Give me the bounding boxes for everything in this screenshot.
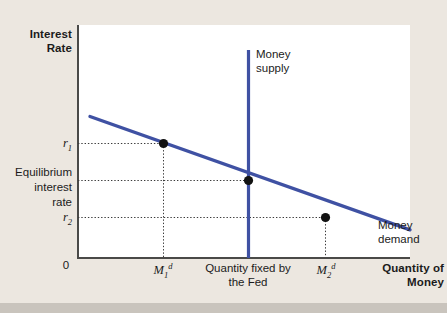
x-tick-m2-base: M	[317, 263, 327, 277]
x-tick-m1-superscript: d	[168, 261, 172, 271]
x-tick-fed: Quantity fixed by the Fed	[196, 261, 300, 290]
plot-area	[78, 25, 410, 258]
y-axis-title: Interest Rate	[6, 28, 72, 55]
x-axis-line	[77, 257, 410, 259]
bottom-strip	[0, 303, 447, 313]
y-axis-line	[77, 25, 79, 259]
y-tick-equilibrium: Equilibrium interest rate	[2, 165, 72, 210]
x-tick-m1-subscript: 1	[164, 270, 168, 280]
money-demand-annotation: Money demand	[378, 218, 444, 246]
x-tick-m1: M1d	[133, 261, 193, 280]
y-tick-r2: r2	[4, 210, 72, 227]
origin-label: 0	[58, 259, 74, 273]
figure-canvas: Interest Rate Quantity of Money 0 r1 Equ…	[0, 0, 447, 313]
x-tick-m2-superscript: d	[331, 261, 335, 271]
x-tick-m1-base: M	[154, 263, 164, 277]
y-tick-r1-subscript: 1	[68, 143, 72, 153]
y-tick-r1: r1	[4, 136, 72, 153]
money-supply-annotation: Money supply	[256, 47, 336, 75]
y-tick-r2-subscript: 2	[68, 217, 72, 227]
x-tick-m2-subscript: 2	[327, 270, 331, 280]
x-tick-m2: M2d	[296, 261, 356, 280]
